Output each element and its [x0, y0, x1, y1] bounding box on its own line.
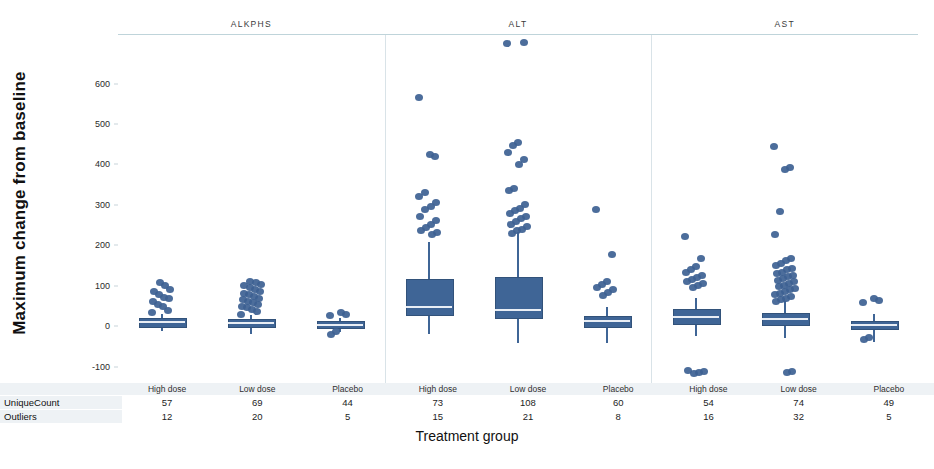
outlier-point: [240, 290, 248, 297]
cell: 69: [212, 396, 302, 410]
cell: 5: [844, 410, 934, 424]
cell: 5: [302, 410, 392, 424]
outlier-point: [697, 255, 705, 262]
outlier-point: [426, 151, 434, 158]
cell: 44: [302, 396, 392, 410]
table-header-row: High dose Low dose Placebo High dose Low…: [0, 383, 934, 396]
median-line: [851, 324, 897, 326]
median-line: [584, 320, 630, 322]
outlier-point: [415, 94, 423, 101]
col-header: High dose: [663, 383, 753, 396]
cell: 54: [663, 396, 753, 410]
outlier-point: [239, 296, 247, 303]
cell: 60: [573, 396, 663, 410]
y-tick-label: 0: [105, 321, 110, 331]
y-tick-mark: [114, 204, 118, 205]
outlier-point: [415, 193, 423, 200]
panel-title-ast: AST: [651, 19, 918, 29]
y-tick-label: 200: [95, 240, 110, 250]
col-header: Low dose: [483, 383, 573, 396]
box-iqr: [495, 277, 543, 319]
panel-separator: [651, 35, 652, 383]
outlier-point: [683, 278, 691, 285]
outlier-point: [689, 284, 697, 291]
cell: 73: [393, 396, 483, 410]
outlier-point: [860, 336, 868, 343]
outlier-point: [592, 206, 600, 213]
outlier-point: [682, 269, 690, 276]
outlier-point: [149, 298, 157, 305]
outlier-point: [506, 210, 514, 217]
median-line: [139, 321, 185, 323]
y-tick-mark: [114, 83, 118, 84]
outlier-point: [783, 369, 791, 376]
median-line: [673, 316, 719, 318]
cell: 16: [663, 410, 753, 424]
row-label: Outliers: [0, 410, 122, 424]
y-tick-mark: [114, 164, 118, 165]
col-header: High dose: [393, 383, 483, 396]
outlier-point: [503, 40, 511, 47]
header-blank: [0, 383, 122, 396]
outlier-point: [593, 284, 601, 291]
cell: 12: [122, 410, 212, 424]
outlier-point: [690, 370, 698, 377]
y-tick-mark: [114, 326, 118, 327]
outlier-point: [859, 299, 867, 306]
row-label: UniqueCount: [0, 396, 122, 410]
cell: 49: [844, 396, 934, 410]
outlier-point: [776, 208, 784, 215]
col-header: Low dose: [754, 383, 844, 396]
outlier-point: [416, 213, 424, 220]
outlier-point: [504, 149, 512, 156]
outlier-point: [417, 227, 425, 234]
outlier-point: [599, 292, 607, 299]
outlier-point: [515, 161, 523, 168]
outlier-point: [608, 251, 616, 258]
cell: 108: [483, 396, 573, 410]
box-iqr: [406, 279, 454, 317]
outlier-point: [509, 142, 517, 149]
median-line: [406, 306, 452, 308]
x-axis-title: Treatment group: [0, 428, 934, 444]
median-line: [228, 322, 274, 324]
table-row-outliers: Outliers 12 20 5 15 21 8 16 32 5: [0, 410, 934, 424]
outlier-point: [148, 309, 156, 316]
y-tick-mark: [114, 245, 118, 246]
outlier-point: [681, 233, 689, 240]
cell: 21: [483, 410, 573, 424]
outlier-point: [772, 298, 780, 305]
cell: 15: [393, 410, 483, 424]
summary-table: High dose Low dose Placebo High dose Low…: [0, 383, 934, 423]
y-tick-label: 300: [95, 200, 110, 210]
outlier-point: [237, 311, 245, 318]
y-axis-title: Maximum change from baseline: [10, 0, 40, 60]
panel-separator: [385, 35, 386, 383]
y-tick-mark: [114, 366, 118, 367]
outlier-point: [771, 231, 779, 238]
cell: 57: [122, 396, 212, 410]
outlier-point: [781, 166, 789, 173]
col-header: Low dose: [212, 383, 302, 396]
y-tick-label: 600: [95, 79, 110, 89]
y-tick-label: 100: [95, 281, 110, 291]
col-header: High dose: [122, 383, 212, 396]
outlier-point: [772, 262, 780, 269]
table-row-uniquecount: UniqueCount 57 69 44 73 108 60 54 74 49: [0, 396, 934, 410]
y-tick-label: 500: [95, 119, 110, 129]
panel-title-alt: ALT: [385, 19, 652, 29]
cell: 20: [212, 410, 302, 424]
boxplot-figure: Maximum change from baseline -1000100200…: [0, 0, 934, 469]
outlier-point: [428, 231, 436, 238]
col-header: Placebo: [573, 383, 663, 396]
outlier-point: [246, 278, 254, 285]
cell: 8: [573, 410, 663, 424]
col-header: Placebo: [844, 383, 934, 396]
panel-title-alkphs: ALKPHS: [118, 19, 385, 29]
median-line: [762, 318, 808, 320]
outlier-point: [156, 279, 164, 286]
outlier-point: [770, 143, 778, 150]
outlier-point: [326, 312, 334, 319]
outlier-point: [508, 230, 516, 237]
median-line: [317, 324, 363, 326]
